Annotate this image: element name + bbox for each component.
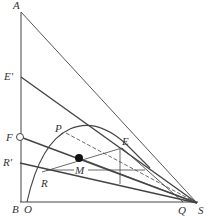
point-M-dot <box>75 154 83 162</box>
label-O: O <box>24 203 32 215</box>
line-A-S <box>21 12 197 203</box>
curve-O-P-E <box>27 125 150 202</box>
label-S: S <box>198 204 204 216</box>
point-F-open-circle <box>17 134 24 141</box>
label-E: E <box>121 135 129 147</box>
geometry-diagram: A E′ F R′ B O P E M R Q S <box>0 0 211 222</box>
label-R-prime: R′ <box>2 156 13 168</box>
label-F: F <box>5 131 13 143</box>
label-A: A <box>12 0 20 11</box>
label-M: M <box>74 164 85 176</box>
label-R: R <box>40 177 48 189</box>
label-Q: Q <box>178 204 186 216</box>
dashed-line-P-S <box>66 133 197 203</box>
label-P: P <box>54 122 62 134</box>
label-E-prime: E′ <box>3 70 14 82</box>
label-B: B <box>12 203 19 215</box>
